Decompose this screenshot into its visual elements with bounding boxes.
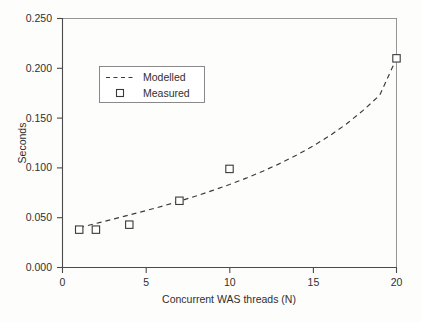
- x-tick-label-20: 20: [391, 276, 403, 288]
- x-axis-title: Concurrent WAS threads (N): [162, 293, 296, 305]
- y-tick-label-0.200: 0.200: [26, 62, 52, 74]
- y-tick-label-0.000: 0.000: [26, 261, 52, 273]
- x-tick-label-15: 15: [308, 276, 320, 288]
- legend-open-square-icon: [117, 90, 124, 97]
- x-tick-label-5: 5: [143, 276, 149, 288]
- chart-legend: Modelled Measured: [100, 67, 205, 103]
- x-tick-label-0: 0: [60, 276, 66, 288]
- data-point-marker: [176, 197, 183, 204]
- chart-figure: 0.250 0.200 0.150 0.100 0.050 0.000 Seco…: [0, 0, 421, 322]
- chart-background: [0, 0, 421, 322]
- data-point-marker: [92, 226, 99, 233]
- data-point-marker: [126, 221, 133, 228]
- y-tick-label-0.250: 0.250: [26, 12, 52, 24]
- y-tick-label-0.050: 0.050: [26, 211, 52, 223]
- legend-label-modelled: Modelled: [143, 71, 186, 83]
- data-point-marker: [76, 226, 83, 233]
- data-point-marker: [393, 55, 400, 62]
- x-tick-label-10: 10: [224, 276, 236, 288]
- legend-label-measured: Measured: [143, 87, 190, 99]
- y-axis-title: Seconds: [16, 123, 28, 164]
- y-tick-label-0.150: 0.150: [26, 112, 52, 124]
- y-tick-label-0.100: 0.100: [26, 161, 52, 173]
- scatter-line-chart: 0.250 0.200 0.150 0.100 0.050 0.000 Seco…: [0, 0, 421, 322]
- data-point-marker: [226, 165, 233, 172]
